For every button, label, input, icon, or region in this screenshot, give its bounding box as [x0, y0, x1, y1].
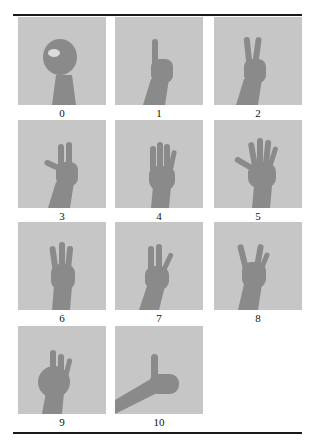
hand-four-fingers-icon: [115, 120, 203, 208]
hand-one-finger-icon: [115, 17, 203, 105]
hand-gesture-image-1: [115, 17, 203, 105]
hand-gesture-image-3: [18, 120, 106, 208]
figure-cell-7: 7: [115, 222, 205, 324]
hand-gesture-image-0: [18, 17, 106, 105]
figure-label-10: 10: [115, 416, 203, 428]
figure-label-8: 8: [214, 312, 302, 324]
hand-gesture-image-10: [115, 326, 203, 414]
figure-label-2: 2: [214, 107, 302, 119]
figure-cell-1: 1: [115, 17, 205, 119]
hand-gesture-image-9: [18, 326, 106, 414]
figure-label-1: 1: [115, 107, 203, 119]
figure-cell-5: 5: [214, 120, 304, 222]
hand-closed-circle-icon: [18, 17, 106, 105]
figure-label-9: 9: [18, 416, 106, 428]
figure-cell-8: 8: [214, 222, 304, 324]
figure-cell-0: 0: [18, 17, 108, 119]
figure-cell-6: 6: [18, 222, 108, 324]
hand-ok-three-fingers-icon: [18, 326, 106, 414]
hand-gesture-image-6: [18, 222, 106, 310]
hand-thumbs-up-icon: [115, 326, 203, 414]
hand-gesture-image-5: [214, 120, 302, 208]
hand-open-palm-icon: [214, 120, 302, 208]
hand-gesture-image-2: [214, 17, 302, 105]
figure-label-3: 3: [18, 210, 106, 222]
figure-cell-4: 4: [115, 120, 205, 222]
figure-label-7: 7: [115, 312, 203, 324]
hand-two-fingers-icon: [214, 17, 302, 105]
figure-label-4: 4: [115, 210, 203, 222]
hand-three-fingers-alt-icon: [115, 222, 203, 310]
hand-gesture-image-7: [115, 222, 203, 310]
hand-horns-fingers-icon: [214, 222, 302, 310]
figure-label-5: 5: [214, 210, 302, 222]
bottom-rule: [13, 432, 302, 434]
hand-gesture-image-4: [115, 120, 203, 208]
figure-cell-10: 10: [115, 326, 205, 428]
top-rule: [13, 14, 302, 16]
figure-label-0: 0: [18, 107, 106, 119]
figure-cell-2: 2: [214, 17, 304, 119]
figure-label-6: 6: [18, 312, 106, 324]
hand-three-fingers-with-thumb-icon: [18, 120, 106, 208]
figure-cell-9: 9: [18, 326, 108, 428]
hand-gesture-image-8: [214, 222, 302, 310]
figure-cell-3: 3: [18, 120, 108, 222]
hand-three-fingers-icon: [18, 222, 106, 310]
